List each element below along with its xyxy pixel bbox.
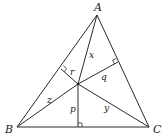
- label-p: p: [70, 104, 76, 114]
- right-angle-marker-bc: [78, 123, 82, 127]
- segment-pa: [78, 15, 97, 84]
- label-y: y: [103, 103, 110, 113]
- interior-point: [77, 83, 79, 85]
- side-ab: [17, 15, 97, 127]
- label-q: q: [101, 72, 107, 82]
- segment-pb: [17, 84, 78, 127]
- vertex-label-c: C: [153, 123, 162, 136]
- triangle-diagram: A B C x y z p q r: [0, 0, 166, 138]
- label-x: x: [89, 50, 94, 60]
- vertex-label-a: A: [93, 1, 102, 14]
- label-z: z: [46, 95, 52, 105]
- label-r: r: [70, 67, 75, 77]
- perpendicular-to-ac: [78, 62, 118, 84]
- vertex-label-b: B: [4, 123, 13, 136]
- segment-pc: [78, 84, 149, 127]
